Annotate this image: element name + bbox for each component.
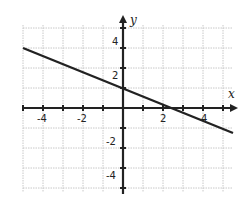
y-axis-label: y <box>129 13 137 27</box>
x-axis-label: x <box>228 87 235 101</box>
y-axis-arrow-icon <box>119 15 127 23</box>
x-tick-label: 2 <box>160 113 166 124</box>
x-axis-arrow-icon <box>230 104 238 112</box>
y-tick-label: -2 <box>106 136 116 147</box>
y-tick-label: 2 <box>112 70 118 81</box>
x-tick-label: -4 <box>37 113 47 124</box>
y-tick-label: -4 <box>106 170 116 181</box>
y-tick-label: 4 <box>112 36 118 47</box>
coordinate-plane: -4 -2 2 4 4 2 -2 -4 x y <box>0 0 247 202</box>
x-tick-label: -2 <box>77 113 87 124</box>
plotted-line <box>23 48 233 133</box>
